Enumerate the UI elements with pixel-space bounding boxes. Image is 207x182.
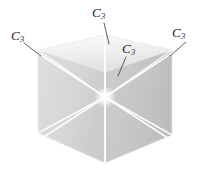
leader-line-right [170,42,186,56]
c3-label-top-subscript: 3 [101,11,105,21]
c3-label-right-symbol: C [172,25,181,40]
c3-label-left-symbol: C [11,28,20,43]
c3-label-top: C3 [92,6,105,21]
c3-label-right: C3 [172,26,185,41]
c3-label-right-subscript: 3 [181,31,185,41]
cube-center-point [103,95,107,99]
cube-c3-axes-figure: C3 C3 C3 C3 [0,0,207,182]
c3-label-top-symbol: C [92,5,101,20]
c3-label-center-symbol: C [122,41,131,56]
c3-label-left: C3 [11,29,24,44]
c3-label-left-subscript: 3 [20,34,24,44]
c3-label-center-subscript: 3 [131,47,135,57]
c3-label-center: C3 [122,42,135,57]
